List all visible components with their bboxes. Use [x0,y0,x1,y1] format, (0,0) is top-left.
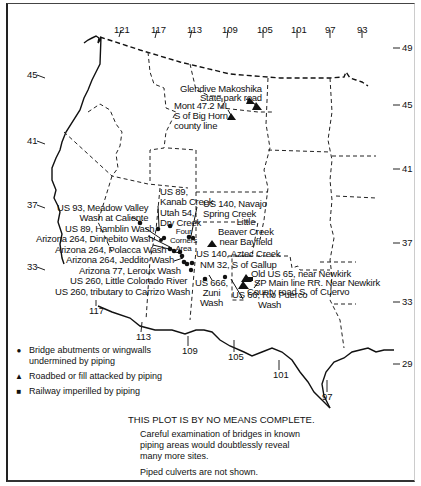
note-line-1: Careful examination of bridges in known [140,429,315,440]
note-line-4: Piped culverts are not shown. [140,467,315,478]
site-label-county-road: County road S. of Cuervo [247,287,349,297]
site-label-us260-little-colorado: US 260, Little Colorado River [70,276,187,286]
note-line-3: many more sites. [140,451,315,462]
longitude-label-bottom-101: 101 [273,370,289,380]
longitude-label-93: 93 [357,25,368,35]
site-label-four-corners: Four Corners Area [170,228,197,254]
map-legend: ● Bridge abutments or wingwalls undermin… [14,345,164,401]
latitude-label-right-37: 37 [402,238,413,248]
longitude-label-117: 117 [151,25,166,35]
site-label-us260-carrizo: US 260, tributary to Carrizo Wash [55,287,190,297]
longitude-label-bottom-113: 113 [136,332,151,342]
longitude-label-121: 121 [114,25,130,35]
latitude-label-right-33: 33 [402,297,413,307]
longitude-label-bottom-117: 117 [89,306,104,316]
legend-label: Roadbed or fill attacked by piping [29,371,162,382]
longitude-label-97: 97 [325,25,336,35]
latitude-label-right-45: 45 [402,100,413,110]
latitude-label-left-45: 45 [27,70,38,80]
note-line-2: piping areas would doubtlessly reveal [140,440,315,451]
site-label-mont: Mont 47.2 MI S of Big Horn county line [174,101,228,131]
site-label-utah54: Utah 54, Dry Creek [160,208,201,228]
longitude-label-101: 101 [291,25,307,35]
legend-item-roadbed: ▲ Roadbed or fill attacked by piping [14,371,164,382]
map-note: THIS PLOT IS BY NO MEANS COMPLETE. Caref… [140,414,315,478]
latitude-label-right-29: 29 [402,359,413,369]
longitude-label-105: 105 [257,25,273,35]
longitude-label-109: 109 [222,25,238,35]
site-label-little-beaver: Little Beaver Creek near Bayfield [218,217,274,247]
site-label-us140-navajo: US 140, Navajo Spring Creek [203,199,267,219]
longitude-label-bottom-105: 105 [228,352,244,362]
latitude-label-right-41: 41 [402,164,413,174]
latitude-label-left-33: 33 [27,262,38,272]
longitude-label-bottom-109: 109 [182,346,198,356]
dot-icon: ● [14,345,24,356]
triangle-icon: ▲ [14,371,24,382]
site-label-us666: US 666, Zuni Wash [195,278,228,308]
canada-border [100,37,368,86]
latitude-label-left-37: 37 [27,200,38,210]
longitude-label-bottom-97: 97 [322,392,333,402]
legend-item-railway: ■ Railway imperilled by piping [14,386,164,397]
site-label-us140-aztec: US 140, Aztec Creek [196,249,280,259]
latitude-label-right-49: 49 [402,43,413,53]
site-label-us93: US 93, Meadow Valley Wash at Caliente [57,203,148,223]
longitude-label-113: 113 [187,25,202,35]
site-label-az264-dinnebito: Arizona 264, Dinnebito Wash [36,234,153,244]
site-label-az264-jeddito: Arizona 264, Jeddito Wash [66,255,174,265]
latitude-label-left-41: 41 [27,136,38,146]
note-title: THIS PLOT IS BY NO MEANS COMPLETE. [128,414,315,425]
texas-coast [322,348,394,408]
square-icon: ■ [14,386,24,397]
legend-item-bridge: ● Bridge abutments or wingwalls undermin… [14,345,164,367]
legend-label: Railway imperilled by piping [29,386,140,397]
legend-label: Bridge abutments or wingwalls undermined… [29,345,164,367]
